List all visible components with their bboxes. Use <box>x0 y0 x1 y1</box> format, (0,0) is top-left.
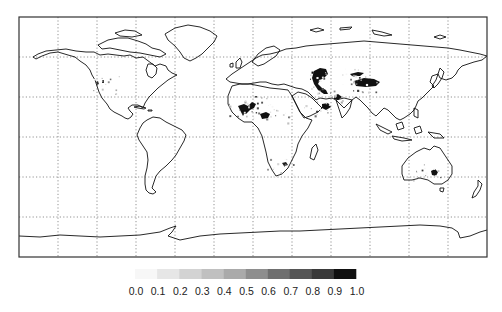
colorbar-tick-label: 0.8 <box>305 285 320 297</box>
data-cell <box>245 100 247 102</box>
data-cell <box>440 177 441 178</box>
data-cell <box>116 93 118 95</box>
data-cell <box>247 103 249 105</box>
data-cell <box>375 91 377 93</box>
data-cell <box>342 100 344 102</box>
data-cell <box>229 104 230 105</box>
map-area <box>19 17 487 257</box>
data-cell <box>368 92 370 94</box>
data-cell <box>275 115 276 116</box>
colorbar-tick-label: 0.5 <box>239 285 254 297</box>
data-cell <box>321 106 322 107</box>
data-cell <box>256 112 257 113</box>
data-cell <box>239 110 240 111</box>
data-cell <box>270 104 271 105</box>
data-cell <box>258 112 260 114</box>
data-cell <box>437 170 439 172</box>
data-cell <box>426 173 428 175</box>
data-cell <box>433 168 434 169</box>
data-cell <box>320 94 321 95</box>
data-cell <box>270 159 272 161</box>
data-cell <box>110 79 112 81</box>
colorbar-tick-label: 0.2 <box>173 285 188 297</box>
data-cell <box>293 164 295 166</box>
colorbar-tick-label: 0.1 <box>151 285 166 297</box>
data-cell <box>268 105 269 106</box>
data-cell <box>327 112 329 114</box>
data-cell <box>332 105 333 106</box>
data-cell <box>334 91 336 93</box>
colorbar-labels: 0.0 0.1 0.2 0.3 0.4 0.5 0.6 0.7 0.8 0.9 … <box>129 285 365 297</box>
data-cell <box>376 82 377 83</box>
data-cell <box>317 101 318 102</box>
data-cell <box>310 75 311 76</box>
data-cell <box>413 180 414 181</box>
data-cell <box>251 111 252 112</box>
data-cell <box>257 107 259 109</box>
data-cell <box>357 80 358 81</box>
data-cell <box>276 110 278 112</box>
data-cell <box>317 114 318 115</box>
data-cell <box>319 93 321 95</box>
data-cell <box>101 85 103 87</box>
data-cell <box>102 81 103 82</box>
data-cell <box>365 76 366 77</box>
data-cell <box>289 116 290 117</box>
data-cell <box>355 83 356 84</box>
data-cell <box>346 73 348 75</box>
data-cell <box>416 171 417 172</box>
data-cell <box>316 77 318 79</box>
data-cell <box>280 172 282 174</box>
data-cell <box>312 72 314 74</box>
data-cell <box>313 87 314 88</box>
data-cell <box>353 75 355 77</box>
data-cell <box>366 84 368 86</box>
data-cell <box>274 109 275 110</box>
colorbar-bin <box>201 269 223 279</box>
data-cell <box>342 74 343 75</box>
data-cell <box>319 91 320 92</box>
data-cell <box>327 110 328 111</box>
data-cell <box>285 113 286 114</box>
data-cell <box>270 112 271 113</box>
data-cell <box>102 89 104 91</box>
data-cell <box>330 93 331 94</box>
data-cell <box>304 107 305 108</box>
data-cell <box>325 72 326 73</box>
data-cell <box>311 88 312 89</box>
data-cell <box>318 94 319 95</box>
data-cell <box>358 70 359 71</box>
data-cell <box>119 76 120 77</box>
colorbar-bin <box>157 269 179 279</box>
colorbar-tick-label: 0.4 <box>217 285 232 297</box>
data-cell <box>323 78 325 80</box>
colorbar-bins <box>135 269 356 279</box>
data-cell <box>316 111 318 113</box>
data-cell <box>115 89 117 91</box>
data-cell <box>93 90 94 91</box>
data-cell <box>267 169 269 171</box>
data-cell <box>320 109 321 110</box>
data-cell <box>343 84 344 85</box>
colorbar-bin <box>290 269 312 279</box>
data-cell <box>353 90 354 91</box>
colorbar: 0.0 0.1 0.2 0.3 0.4 0.5 0.6 0.7 0.8 0.9 … <box>129 269 365 297</box>
data-cell <box>321 100 322 101</box>
data-cell <box>354 69 355 70</box>
data-cell <box>286 159 287 160</box>
data-cell <box>320 111 321 112</box>
colorbar-tick-label: 0.3 <box>195 285 210 297</box>
data-cell <box>229 106 231 108</box>
data-cell <box>94 79 96 81</box>
data-cell <box>424 164 425 165</box>
data-cell <box>266 118 268 120</box>
data-cell <box>283 114 285 116</box>
data-cell <box>416 172 417 173</box>
data-cell <box>315 115 317 117</box>
data-cell <box>329 105 330 106</box>
map-figure: 0.0 0.1 0.2 0.3 0.4 0.5 0.6 0.7 0.8 0.9 … <box>0 0 502 312</box>
data-cell <box>233 109 234 110</box>
colorbar-bin <box>268 269 290 279</box>
data-cell <box>326 103 328 105</box>
data-cell <box>325 74 326 75</box>
